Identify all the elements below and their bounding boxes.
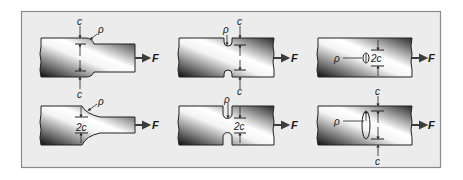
label-force: F [428, 119, 435, 131]
label-c-top: c [375, 86, 380, 97]
label-force: F [152, 119, 159, 131]
stress-concentration-figure: c ρ c F ρ 2c F ρ c F [0, 0, 463, 180]
label-rho: ρ [333, 116, 340, 127]
label-c-top: c [77, 16, 82, 27]
label-rho: ρ [97, 24, 104, 35]
label-force: F [291, 119, 298, 131]
label-2c: 2c [75, 122, 87, 133]
label-2c: 2c [370, 53, 382, 64]
label-c-bottom: c [375, 156, 380, 167]
label-rho: ρ [333, 53, 340, 64]
label-rho: ρ [97, 96, 104, 107]
label-c-top: c [237, 16, 242, 27]
label-rho: ρ [223, 94, 230, 105]
label-c-top: c [237, 86, 242, 97]
label-2c: 2c [233, 121, 245, 132]
specimen-bar [40, 38, 135, 77]
label-force: F [152, 52, 159, 64]
label-c-bottom: c [77, 89, 82, 100]
label-force: F [428, 52, 435, 64]
label-rho: ρ [222, 24, 229, 35]
label-force: F [291, 52, 298, 64]
